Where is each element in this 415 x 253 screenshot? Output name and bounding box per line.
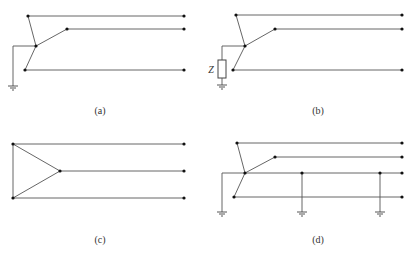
wye-arm-3 bbox=[233, 46, 245, 70]
neutral-ground-wire bbox=[13, 46, 36, 86]
diagram-canvas: (a) Z (b) bbox=[0, 0, 415, 253]
node bbox=[232, 195, 235, 198]
wye-arm-1 bbox=[237, 143, 245, 173]
node bbox=[11, 196, 14, 199]
node bbox=[378, 171, 381, 174]
ground-icon bbox=[217, 212, 227, 216]
panel-a: (a) bbox=[8, 14, 186, 117]
node bbox=[58, 169, 61, 172]
node bbox=[235, 141, 238, 144]
node bbox=[400, 141, 403, 144]
ground-icon bbox=[297, 212, 307, 216]
wye-arm-2 bbox=[36, 29, 67, 46]
panel-c: (c) bbox=[11, 142, 185, 246]
neutral-ground-wire bbox=[222, 173, 245, 212]
caption-d: (d) bbox=[312, 234, 324, 246]
node bbox=[11, 142, 14, 145]
node bbox=[273, 155, 276, 158]
node bbox=[400, 27, 403, 30]
node bbox=[23, 68, 26, 71]
node bbox=[400, 13, 403, 16]
caption-a: (a) bbox=[94, 105, 105, 117]
node bbox=[182, 142, 185, 145]
node bbox=[400, 171, 403, 174]
wye-arm-1 bbox=[28, 16, 36, 46]
wye-arm-2 bbox=[245, 157, 275, 173]
node bbox=[26, 14, 29, 17]
impedance-label: Z bbox=[208, 64, 214, 75]
node bbox=[182, 68, 185, 71]
node bbox=[182, 14, 185, 17]
ground-icon bbox=[375, 212, 385, 216]
node bbox=[400, 155, 403, 158]
node bbox=[182, 196, 185, 199]
node bbox=[182, 169, 185, 172]
caption-b: (b) bbox=[312, 105, 324, 117]
node bbox=[231, 68, 234, 71]
neutral-node bbox=[243, 171, 246, 174]
wye-arm-3 bbox=[25, 46, 36, 70]
wye-arm-3 bbox=[234, 173, 245, 197]
neutral-node bbox=[34, 44, 37, 47]
wye-arm-1 bbox=[236, 15, 245, 46]
node bbox=[273, 27, 276, 30]
node bbox=[400, 195, 403, 198]
node bbox=[400, 68, 403, 71]
impedance-z bbox=[218, 60, 226, 78]
node bbox=[65, 27, 68, 30]
panel-b: Z (b) bbox=[208, 13, 403, 117]
ground-icon bbox=[217, 85, 227, 89]
caption-c: (c) bbox=[94, 234, 105, 246]
wye-arm-2 bbox=[245, 29, 275, 46]
neutral-node bbox=[243, 44, 246, 47]
node bbox=[234, 13, 237, 16]
node bbox=[300, 171, 303, 174]
delta-triangle bbox=[13, 144, 60, 198]
panel-d: (d) bbox=[217, 141, 404, 246]
node bbox=[182, 27, 185, 30]
ground-icon bbox=[8, 86, 18, 90]
